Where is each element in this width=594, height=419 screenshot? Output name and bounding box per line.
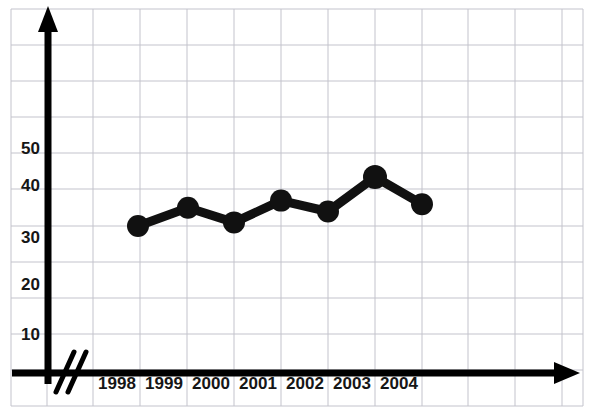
data-point [270,190,292,212]
x-tick-label-1998: 1998 [93,374,141,394]
x-tick-label-2002: 2002 [281,374,329,394]
data-point [177,197,199,219]
x-tick-label-1999: 1999 [140,374,188,394]
line-chart: 50 40 30 20 10 1998 1999 2000 2001 2002 … [0,0,594,419]
y-tick-label-10: 10 [6,325,40,345]
data-markers [127,165,433,237]
y-tick-label-20: 20 [6,275,40,295]
x-tick-label-2000: 2000 [187,374,235,394]
data-point [317,201,339,223]
y-axis [38,6,58,384]
x-tick-label-2004: 2004 [375,374,423,394]
plot-layer [0,0,594,419]
data-point [127,215,149,237]
y-tick-label-30: 30 [6,228,40,248]
y-tick-label-50: 50 [6,139,40,159]
y-tick-label-40: 40 [6,176,40,196]
x-tick-label-2001: 2001 [234,374,282,394]
x-tick-label-2003: 2003 [328,374,376,394]
data-point [223,211,245,233]
data-point [363,165,387,189]
data-point [411,193,433,215]
